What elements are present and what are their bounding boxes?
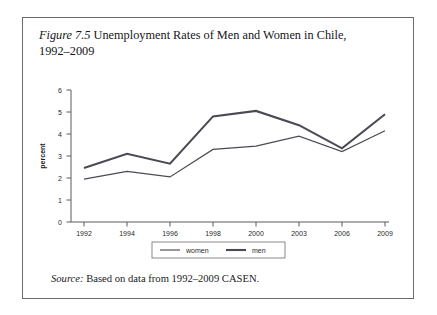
- x-tick-label-1996: 1996: [162, 230, 178, 237]
- figure-number: Figure 7.5: [39, 28, 90, 42]
- figure-caption: Figure 7.5 Unemployment Rates of Men and…: [39, 28, 369, 59]
- x-axis-ticks: 1992 1994 1996 1998 2000 2003 2006 2009: [76, 222, 393, 237]
- chart-plot-area: 0 1 2 3 4 5 6 percent 1992: [23, 76, 415, 261]
- x-tick-label-2000: 2000: [248, 230, 264, 237]
- legend-label-men: men: [252, 247, 266, 254]
- x-tick-label-2003: 2003: [291, 230, 307, 237]
- unemployment-line-chart: 0 1 2 3 4 5 6 percent 1992: [23, 76, 415, 261]
- source-text: Based on data from 1992–2009 CASEN.: [86, 273, 259, 284]
- x-tick-label-1998: 1998: [205, 230, 221, 237]
- series-line-women: [84, 111, 385, 168]
- y-axis-ticks: 0 1 2 3 4 5 6: [58, 87, 71, 226]
- source-label: Source:: [51, 273, 84, 284]
- x-tick-label-1992: 1992: [76, 230, 92, 237]
- x-tick-label-2006: 2006: [334, 230, 350, 237]
- legend-label-women: women: [185, 247, 209, 254]
- y-tick-label-1: 1: [58, 197, 62, 204]
- chart-legend: women men: [152, 242, 285, 258]
- x-tick-label-2009: 2009: [377, 230, 393, 237]
- x-tick-label-1994: 1994: [119, 230, 135, 237]
- source-note: Source: Based on data from 1992–2009 CAS…: [51, 273, 259, 284]
- figure-frame: Figure 7.5 Unemployment Rates of Men and…: [22, 17, 414, 299]
- y-tick-label-5: 5: [58, 109, 62, 116]
- y-tick-label-3: 3: [58, 153, 62, 160]
- y-axis-title: percent: [39, 143, 47, 169]
- y-tick-label-2: 2: [58, 175, 62, 182]
- y-tick-label-6: 6: [58, 87, 62, 94]
- y-tick-label-4: 4: [58, 131, 62, 138]
- y-tick-label-0: 0: [58, 219, 62, 226]
